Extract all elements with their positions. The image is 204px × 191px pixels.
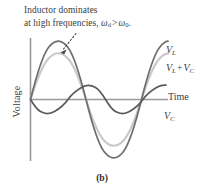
curve-label-vl: VL	[166, 44, 176, 57]
annotation-line-2-text: at high frequencies,	[24, 18, 101, 28]
annotation-line-2: at high frequencies, ωd>ω0.	[24, 17, 184, 31]
x-axis-label: Time	[168, 91, 189, 102]
annotation-period: .	[129, 18, 131, 28]
annotation-line-1: Inductor dominates	[24, 5, 184, 17]
omega-d-symbol: ω	[101, 18, 108, 28]
y-axis-label: Voltage	[11, 69, 22, 135]
figure-caption: (b)	[0, 172, 204, 183]
greater-than-symbol: >	[111, 17, 118, 28]
curve-label-sum: VL+VC	[166, 62, 194, 75]
curve-label-sum-subscript-2: C	[190, 67, 195, 75]
curve-label-vc-subscript: C	[170, 115, 175, 123]
annotation-leader-group	[61, 34, 77, 55]
annotation-leader-line	[64, 34, 77, 50]
annotation-text: Inductor dominates at high frequencies, …	[24, 5, 184, 31]
curve-label-vl-subscript: L	[172, 49, 176, 57]
curve-label-vc: VC	[164, 110, 175, 123]
